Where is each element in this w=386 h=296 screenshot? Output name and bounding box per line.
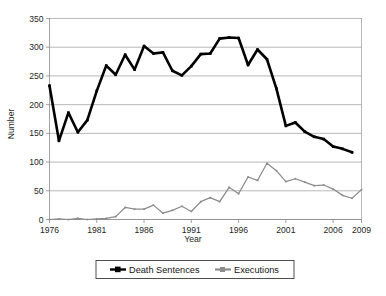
data-point-death-sentences-2006	[332, 145, 335, 148]
data-point-executions-1986	[143, 208, 145, 210]
data-point-executions-2006	[332, 188, 334, 190]
y-tick-label-0: 0	[39, 215, 44, 225]
data-point-executions-1982	[105, 218, 107, 220]
y-tick-label-350: 350	[29, 14, 44, 24]
data-point-death-sentences-2003	[303, 130, 306, 133]
chart-legend: Death Sentences Executions	[96, 261, 294, 279]
data-point-executions-1980	[86, 219, 88, 221]
data-point-executions-1989	[172, 209, 174, 211]
x-tick-label-1986: 1986	[134, 225, 153, 235]
data-point-executions-1999	[266, 162, 268, 164]
data-point-death-sentences-1983	[114, 73, 117, 76]
data-point-executions-1985	[134, 208, 136, 210]
data-point-executions-2002	[294, 178, 296, 180]
data-point-executions-1990	[181, 205, 183, 207]
data-point-death-sentences-1989	[171, 69, 174, 72]
data-point-death-sentences-1999	[266, 58, 269, 61]
data-point-executions-2009	[361, 189, 363, 191]
data-point-executions-2005	[323, 184, 325, 186]
data-point-executions-1994	[219, 201, 221, 203]
data-point-executions-2008	[351, 197, 353, 199]
data-point-death-sentences-2000	[275, 87, 278, 90]
chart-container: 050100150200250300350 197619811986199119…	[0, 0, 386, 296]
data-point-death-sentences-2005	[322, 138, 325, 141]
data-point-executions-2001	[285, 181, 287, 183]
data-point-death-sentences-2001	[285, 125, 288, 128]
data-point-death-sentences-2007	[341, 148, 344, 151]
data-point-death-sentences-1991	[190, 65, 193, 68]
data-point-executions-2007	[342, 195, 344, 197]
data-point-executions-1984	[124, 207, 126, 209]
data-point-executions-1991	[190, 211, 192, 213]
x-axis-title: Year	[184, 234, 202, 244]
data-point-executions-1992	[200, 201, 202, 203]
series-line-executions	[50, 163, 362, 219]
series-executions	[49, 162, 363, 220]
gridlines	[50, 47, 362, 219]
x-tick-label-2006: 2006	[324, 225, 343, 235]
data-point-death-sentences-1997	[247, 64, 250, 67]
data-point-death-sentences-1986	[143, 45, 146, 48]
x-tick-label-1991: 1991	[182, 225, 201, 235]
data-point-death-sentences-1981	[95, 90, 98, 93]
data-point-executions-1978	[68, 219, 70, 221]
data-point-death-sentences-1988	[162, 51, 165, 54]
data-point-executions-1988	[162, 212, 164, 214]
data-point-death-sentences-2002	[294, 121, 297, 124]
legend-marker-death-sentences	[115, 267, 121, 273]
x-tick-label-1981: 1981	[87, 225, 106, 235]
bottom-edge-artifact	[206, 284, 384, 294]
x-tick-label-2001: 2001	[276, 225, 295, 235]
data-point-death-sentences-1994	[218, 37, 221, 40]
legend-marker-executions	[220, 267, 225, 272]
y-axis-title: Number	[6, 109, 16, 140]
data-point-death-sentences-1979	[77, 131, 80, 134]
series-death-sentences	[48, 36, 353, 153]
y-tick-label-150: 150	[29, 128, 44, 138]
legend-label-executions: Executions	[234, 265, 279, 275]
y-tick-label-50: 50	[34, 186, 44, 196]
plot-frame	[50, 18, 363, 220]
data-point-death-sentences-1992	[199, 53, 202, 56]
data-point-death-sentences-2008	[351, 151, 354, 154]
data-point-death-sentences-1977	[58, 140, 61, 143]
data-point-executions-1997	[247, 176, 249, 178]
y-tick-label-300: 300	[29, 42, 44, 52]
data-point-executions-1981	[96, 218, 98, 220]
y-tick-label-250: 250	[29, 71, 44, 81]
data-point-death-sentences-1984	[124, 53, 127, 56]
x-axis-ticks: 19761981198619911996200120062009	[40, 220, 371, 235]
data-point-executions-2000	[276, 170, 278, 172]
data-point-death-sentences-1995	[228, 36, 231, 39]
data-point-death-sentences-1987	[152, 52, 155, 55]
data-point-death-sentences-2004	[313, 136, 316, 139]
x-tick-label-1996: 1996	[229, 225, 248, 235]
data-point-executions-1977	[58, 218, 60, 220]
data-point-executions-1993	[209, 197, 211, 199]
legend-label-death-sentences: Death Sentences	[129, 265, 200, 275]
y-tick-label-100: 100	[29, 157, 44, 167]
x-tick-label-2009: 2009	[352, 225, 371, 235]
data-point-death-sentences-1985	[133, 68, 136, 71]
data-point-executions-1987	[153, 204, 155, 206]
data-point-executions-1996	[238, 193, 240, 195]
data-point-death-sentences-1998	[256, 48, 259, 51]
data-point-executions-2003	[304, 181, 306, 183]
data-point-death-sentences-1996	[237, 37, 240, 40]
data-point-executions-1998	[257, 180, 259, 182]
data-point-death-sentences-1990	[181, 74, 184, 77]
data-point-executions-2004	[313, 185, 315, 187]
data-point-death-sentences-1976	[48, 84, 51, 87]
data-point-executions-1983	[115, 216, 117, 218]
data-point-death-sentences-1978	[67, 111, 70, 114]
data-point-death-sentences-1982	[105, 64, 108, 67]
data-point-death-sentences-1993	[209, 52, 212, 55]
data-point-executions-1995	[228, 186, 230, 188]
x-tick-label-1976: 1976	[40, 225, 59, 235]
y-axis-ticks: 050100150200250300350	[29, 14, 49, 225]
y-tick-label-200: 200	[29, 100, 44, 110]
data-point-executions-1976	[49, 219, 51, 221]
line-chart: 050100150200250300350 197619811986199119…	[0, 0, 386, 296]
data-point-death-sentences-1980	[86, 119, 89, 122]
data-point-executions-1979	[77, 218, 79, 220]
